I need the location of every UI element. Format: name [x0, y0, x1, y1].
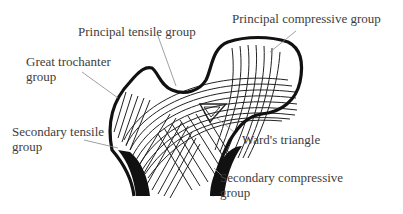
label-principal-compressive-group: Principal compressive group: [232, 11, 381, 26]
label-wards-triangle: Ward's triangle: [242, 132, 320, 147]
label-secondary-tensile-group: Secondary tensile group: [12, 124, 104, 154]
leader-principal-compressive: [270, 31, 296, 52]
label-principal-tensile-group: Principal tensile group: [78, 24, 196, 39]
label-secondary-compressive-group: Secondary compressive group: [220, 170, 343, 200]
label-great-trochanter-group: Great trochanter group: [26, 54, 111, 84]
